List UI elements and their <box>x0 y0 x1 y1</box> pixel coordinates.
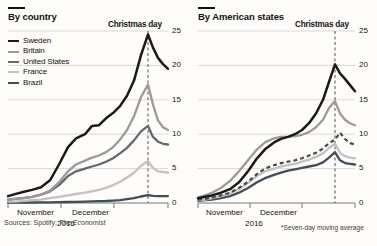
legend-item-sweden[interactable]: Sweden <box>8 36 69 46</box>
legend-swatch-united-states <box>8 61 19 63</box>
legend-item-brazil[interactable]: Brazil <box>8 78 69 88</box>
christmas-day-label-right: Christmas day <box>295 20 349 29</box>
legend-swatch-sweden <box>8 40 19 42</box>
y-tick-right-20: 20 <box>359 60 368 69</box>
y-tick-left-25: 25 <box>172 26 181 35</box>
y-tick-left-20: 20 <box>172 60 181 69</box>
source-note: Sources: Spotify; The Economist <box>4 219 106 226</box>
panel-by-american-states: By American states <box>190 0 377 246</box>
y-tick-right-0: 0 <box>359 198 363 207</box>
x-tick-left-december: December <box>72 208 109 217</box>
legend-label-france: France <box>23 67 47 77</box>
y-tick-right-5: 5 <box>359 163 363 172</box>
legend-swatch-france <box>8 71 19 73</box>
x-axis-year-right: 2016 <box>245 219 263 228</box>
x-tick-right-december: December <box>260 208 297 217</box>
legend-label-brazil: Brazil <box>23 78 42 88</box>
legend-item-britain[interactable]: Britain <box>8 46 69 56</box>
panel-by-country: By country Christmas day <box>0 0 190 246</box>
legend-by-country: Sweden Britain United States France Braz… <box>8 36 69 88</box>
y-tick-right-25: 25 <box>359 26 368 35</box>
legend-swatch-britain <box>8 51 19 53</box>
y-tick-left-5: 5 <box>172 163 176 172</box>
y-tick-left-0: 0 <box>172 198 176 207</box>
x-tick-left-november: November <box>17 208 54 217</box>
y-tick-right-15: 15 <box>359 95 368 104</box>
y-tick-left-10: 10 <box>172 129 181 138</box>
source-prefix: Sources: Spotify; <box>4 219 59 226</box>
legend-item-france[interactable]: France <box>8 67 69 77</box>
y-tick-right-10: 10 <box>359 129 368 138</box>
footnote-moving-average: *Seven-day moving average <box>281 224 364 231</box>
legend-label-sweden: Sweden <box>23 36 51 46</box>
legend-swatch-brazil <box>8 82 19 84</box>
x-tick-right-november: November <box>206 208 243 217</box>
legend-item-united-states[interactable]: United States <box>8 57 69 67</box>
legend-label-united-states: United States <box>23 57 69 67</box>
y-tick-left-15: 15 <box>172 95 181 104</box>
legend-label-britain: Britain <box>23 46 45 56</box>
source-publication: The Economist <box>59 219 106 226</box>
